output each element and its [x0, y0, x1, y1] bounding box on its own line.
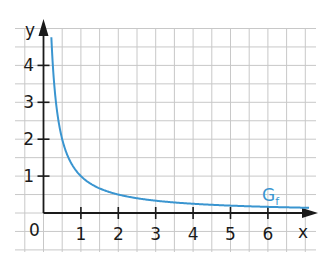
grid — [15, 28, 316, 252]
x-tick-label: 3 — [150, 224, 161, 244]
y-tick-label: 4 — [23, 55, 34, 75]
y-tick-label: 3 — [23, 92, 34, 112]
x-axis-label: x — [298, 222, 308, 242]
x-tick-label: 5 — [225, 224, 236, 244]
x-tick-label: 4 — [188, 224, 199, 244]
y-axis-arrow-icon — [39, 19, 49, 36]
x-tick-label: 6 — [262, 224, 273, 244]
function-curve — [51, 37, 309, 208]
graph-label-main: G — [262, 185, 275, 205]
ticks — [38, 65, 268, 219]
y-axis-label: y — [25, 20, 35, 40]
x-tick-label: 1 — [75, 224, 86, 244]
graph-label-subscript: f — [275, 195, 280, 208]
y-tick-label: 1 — [23, 166, 34, 186]
y-tick-label: 2 — [23, 129, 34, 149]
x-axis-arrow-icon — [302, 208, 318, 218]
x-tick-label: 2 — [113, 224, 124, 244]
function-graph: 1234561234 x y 0 Gf — [0, 0, 327, 268]
graph-label: Gf — [262, 185, 280, 208]
origin-label: 0 — [29, 220, 40, 240]
